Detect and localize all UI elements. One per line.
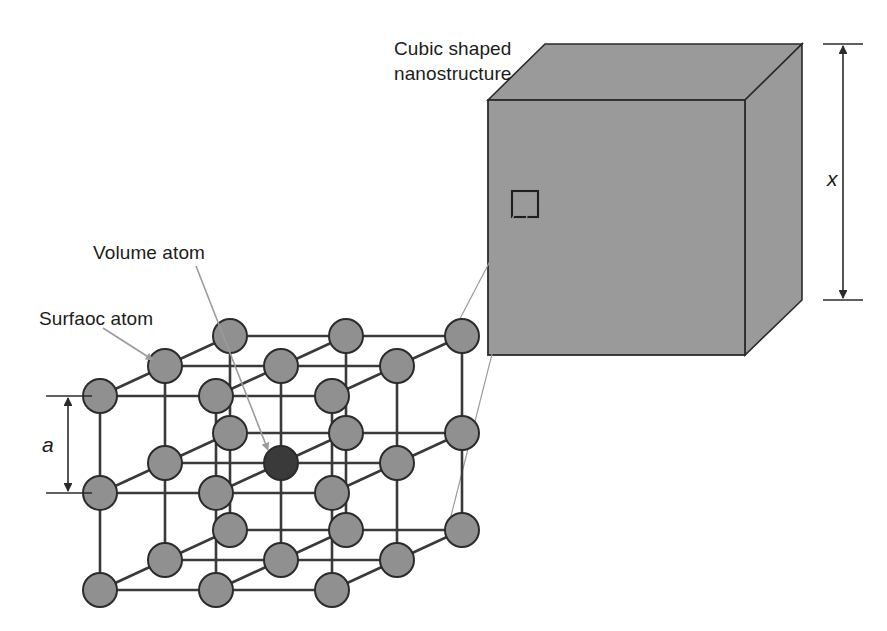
- cube-right-face: [745, 44, 802, 355]
- surface-atom: [213, 513, 247, 547]
- surface-atom: [199, 573, 233, 607]
- cube-front-face: [488, 100, 745, 355]
- surface-atom: [199, 379, 233, 413]
- volume-atom: [264, 446, 298, 480]
- surface-atom: [329, 319, 363, 353]
- surface-atom: [264, 349, 298, 383]
- surface-atom: [380, 543, 414, 577]
- surface-atom: [148, 543, 182, 577]
- lattice-atoms: [83, 319, 479, 607]
- surface-atom: [213, 416, 247, 450]
- cube-shape: [488, 44, 802, 355]
- dimension-a-label: a: [42, 432, 54, 457]
- surface-atom: [445, 513, 479, 547]
- surface-atom: [199, 476, 233, 510]
- surface-atom: [148, 349, 182, 383]
- surface-atom-label: Surfaoc atom: [39, 306, 153, 331]
- surface-atom: [329, 513, 363, 547]
- cubic-nanostructure-label: Cubic shaped nanostructure: [394, 36, 511, 86]
- surface-atom-arrow: [103, 328, 153, 360]
- surface-atom: [315, 379, 349, 413]
- surface-atom: [380, 446, 414, 480]
- surface-atom: [329, 416, 363, 450]
- dimension-x-label: x: [827, 166, 838, 191]
- surface-atom: [445, 416, 479, 450]
- surface-atom: [83, 573, 117, 607]
- surface-atom: [445, 319, 479, 353]
- surface-atom: [264, 543, 298, 577]
- nanostructure-diagram: Cubic shaped nanostructure Volume atom S…: [0, 0, 887, 631]
- surface-atom: [315, 476, 349, 510]
- surface-atom: [315, 573, 349, 607]
- surface-atom: [148, 446, 182, 480]
- surface-atom: [380, 349, 414, 383]
- volume-atom-label: Volume atom: [93, 240, 205, 265]
